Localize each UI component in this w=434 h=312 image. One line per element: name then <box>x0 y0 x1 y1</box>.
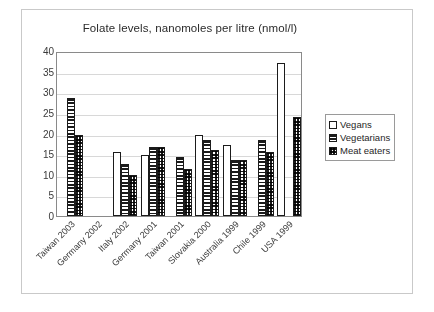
bar <box>67 98 75 216</box>
bar <box>223 145 231 216</box>
bar-group <box>86 53 110 216</box>
bar-group <box>168 53 192 216</box>
bar <box>211 150 219 216</box>
bar <box>239 160 247 216</box>
legend-item: Vegans <box>329 118 390 131</box>
bars-layer <box>57 53 301 216</box>
bar-group <box>195 53 219 216</box>
y-tick-label: 30 <box>28 87 54 98</box>
y-tick-label: 5 <box>28 190 54 201</box>
chart-title: Folate levels, nanomoles per litre (nmol… <box>40 22 340 34</box>
y-tick-label: 25 <box>28 108 54 119</box>
y-tick-label: 15 <box>28 149 54 160</box>
legend-label: Vegetarians <box>340 132 390 143</box>
chart-figure: Folate levels, nanomoles per litre (nmol… <box>0 0 434 312</box>
x-axis: Taiwan 2003Germany 2002Italy 2002Germany… <box>56 219 316 289</box>
bar <box>157 147 165 216</box>
bar <box>141 155 149 216</box>
bar <box>113 152 121 216</box>
y-tick-label: 0 <box>28 211 54 222</box>
chart-legend: VegansVegetariansMeat eaters <box>325 114 395 161</box>
bar-group <box>59 53 83 216</box>
legend-swatch-icon <box>329 147 337 155</box>
bar <box>129 175 137 216</box>
bar <box>266 152 274 216</box>
bar <box>121 164 129 216</box>
bar-group <box>277 53 301 216</box>
bar-group <box>223 53 247 216</box>
legend-swatch-icon <box>329 134 337 142</box>
legend-label: Meat eaters <box>340 145 390 156</box>
y-axis: 4035302520151050 <box>28 46 54 223</box>
legend-label: Vegans <box>340 119 372 130</box>
plot-area <box>56 52 302 217</box>
bar <box>149 147 157 216</box>
bar-group <box>250 53 274 216</box>
y-tick-label: 40 <box>28 46 54 57</box>
bar <box>277 63 285 216</box>
legend-item: Meat eaters <box>329 144 390 157</box>
legend-swatch-icon <box>329 121 337 129</box>
bar <box>75 135 83 216</box>
bar <box>184 169 192 216</box>
bar-group <box>113 53 137 216</box>
bar <box>195 135 203 216</box>
y-tick-label: 35 <box>28 67 54 78</box>
bar <box>203 140 211 216</box>
bar-group <box>141 53 165 216</box>
y-tick-label: 20 <box>28 129 54 140</box>
y-tick-label: 10 <box>28 170 54 181</box>
bar <box>293 117 301 216</box>
bar <box>258 140 266 216</box>
bar <box>231 160 239 217</box>
legend-item: Vegetarians <box>329 131 390 144</box>
bar <box>176 157 184 216</box>
